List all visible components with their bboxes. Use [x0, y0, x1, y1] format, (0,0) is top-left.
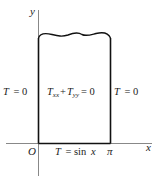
bottom-boundary-condition: T = sin x [55, 146, 96, 157]
right-boundary-condition: T = 0 [114, 86, 138, 97]
left-boundary-condition: T = 0 [3, 86, 27, 97]
heat-equation-diagram: y x O π T = 0 Txx+Tyy= 0 T = 0 T = sin x [0, 0, 161, 182]
pi-tick-label: π [107, 145, 113, 157]
x-axis-label: x [145, 141, 151, 153]
region-wavy-top [39, 33, 111, 38]
origin-label: O [28, 145, 36, 157]
laplace-equation: Txx+Tyy= 0 [47, 86, 95, 99]
y-axis-label: y [29, 5, 35, 17]
